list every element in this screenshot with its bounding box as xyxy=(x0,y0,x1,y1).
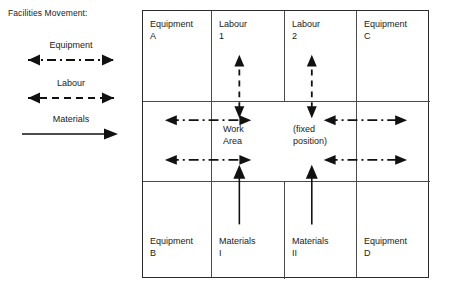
legend-item-materials: Materials xyxy=(6,114,136,142)
cell-labour-2: Labour 2 xyxy=(292,18,320,42)
equipment-flow-left-lower xyxy=(165,155,251,165)
cell-materials-1: Materials I xyxy=(219,235,256,259)
cell-line-1: Labour xyxy=(292,19,320,29)
grid-divider-vertical-2-top xyxy=(284,11,285,101)
cell-line-2: position) xyxy=(293,136,327,146)
diagram-canvas: Facilities Movement: Equipment Labour Ma… xyxy=(0,0,452,289)
cell-line-1: Equipment xyxy=(364,236,407,246)
legend-item-label: Equipment xyxy=(6,40,136,50)
cell-line-2: II xyxy=(292,248,297,258)
cell-equipment-b: Equipment B xyxy=(150,235,193,259)
equipment-flow-right-lower xyxy=(324,155,407,165)
band-rule-bottom-left xyxy=(143,181,211,182)
legend: Facilities Movement: Equipment Labour Ma… xyxy=(6,6,136,146)
legend-item-labour: Labour xyxy=(6,78,136,106)
cell-line-2: C xyxy=(364,31,371,41)
labour-flow-1 xyxy=(234,55,244,119)
cell-line-2: A xyxy=(150,31,156,41)
materials-flow-2 xyxy=(306,165,318,225)
cell-line-2: I xyxy=(219,248,222,258)
cell-line-2: 2 xyxy=(292,31,297,41)
labour-arrow-icon xyxy=(14,91,128,105)
grid-divider-vertical-2-bottom xyxy=(284,181,285,279)
cell-line-1: Work xyxy=(223,124,244,134)
cell-line-2: Area xyxy=(223,136,242,146)
cell-labour-1: Labour 1 xyxy=(219,18,247,42)
equipment-arrow-icon xyxy=(14,53,128,67)
band-rule-top-right xyxy=(356,101,430,102)
legend-item-label: Labour xyxy=(6,78,136,88)
cell-line-1: Equipment xyxy=(150,19,193,29)
band-rule-top-left xyxy=(143,101,211,102)
cell-line-2: D xyxy=(364,248,371,258)
facilities-grid: Equipment A Labour 1 Labour 2 Equipment … xyxy=(142,10,429,278)
materials-arrow-icon xyxy=(14,127,128,141)
cell-equipment-a: Equipment A xyxy=(150,18,193,42)
legend-item-equipment: Equipment xyxy=(6,40,136,68)
band-rule-top-mid xyxy=(211,101,356,102)
grid-divider-vertical-3 xyxy=(356,11,357,277)
materials-flow-1 xyxy=(233,165,245,225)
cell-work-area: Work Area xyxy=(223,123,244,147)
cell-line-1: Labour xyxy=(219,19,247,29)
equipment-flow-right-upper xyxy=(324,115,407,125)
cell-line-1: Materials xyxy=(292,236,329,246)
cell-line-1: Equipment xyxy=(364,19,407,29)
cell-line-1: Materials xyxy=(219,236,256,246)
band-rule-bottom-mid xyxy=(211,181,356,182)
cell-line-2: B xyxy=(150,248,156,258)
labour-flow-2 xyxy=(307,55,317,119)
grid-divider-vertical-1 xyxy=(211,11,212,277)
band-rule-bottom-right xyxy=(356,181,430,182)
legend-title: Facilities Movement: xyxy=(8,8,87,18)
cell-equipment-c: Equipment C xyxy=(364,18,407,42)
cell-line-1: Equipment xyxy=(150,236,193,246)
cell-line-1: (fixed xyxy=(293,124,315,134)
cell-equipment-d: Equipment D xyxy=(364,235,407,259)
legend-item-label: Materials xyxy=(6,114,136,124)
cell-materials-2: Materials II xyxy=(292,235,329,259)
cell-fixed-position: (fixed position) xyxy=(293,123,327,147)
cell-line-2: 1 xyxy=(219,31,224,41)
